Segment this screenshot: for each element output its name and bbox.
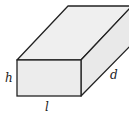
length-label: l — [45, 101, 49, 113]
box-diagram: h l d — [0, 0, 129, 114]
depth-label: d — [110, 69, 118, 81]
prism-drawing — [0, 0, 129, 114]
height-label: h — [5, 72, 13, 84]
front-face — [17, 60, 81, 96]
